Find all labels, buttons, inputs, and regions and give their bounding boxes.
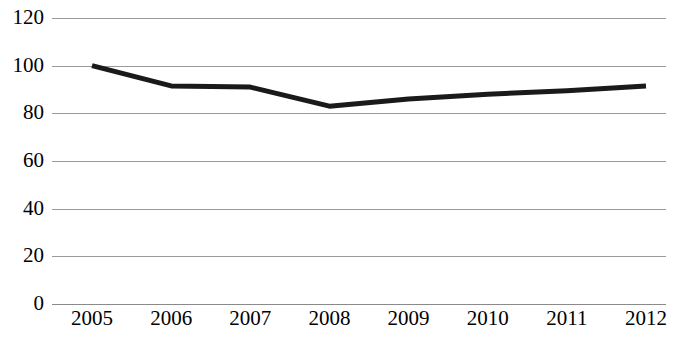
x-tick-label: 2006 bbox=[150, 308, 192, 329]
x-tick-label: 2008 bbox=[308, 308, 350, 329]
line-chart: 020406080100120 200520062007200820092010… bbox=[0, 0, 681, 337]
x-axis-labels: 20052006200720082009201020112012 bbox=[0, 308, 681, 337]
x-tick-label: 2010 bbox=[467, 308, 509, 329]
x-tick-label: 2009 bbox=[388, 308, 430, 329]
x-tick-label: 2005 bbox=[71, 308, 113, 329]
x-tick-label: 2011 bbox=[546, 308, 587, 329]
series-line bbox=[92, 66, 646, 107]
x-tick-label: 2007 bbox=[229, 308, 271, 329]
x-tick-label: 2012 bbox=[625, 308, 667, 329]
series-layer bbox=[0, 0, 681, 337]
